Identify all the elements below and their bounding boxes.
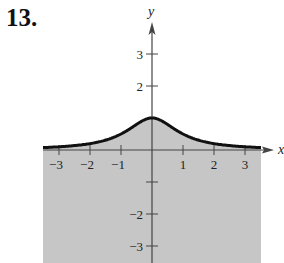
x-tick-label: 2: [211, 157, 218, 172]
y-axis-label: y: [146, 4, 155, 19]
y-tick-label: 2: [137, 79, 144, 94]
x-tick-label: 3: [242, 157, 249, 172]
x-tick-label: −2: [80, 157, 94, 172]
x-axis-label: x: [277, 142, 284, 157]
y-tick-label: 3: [137, 47, 144, 62]
x-tick-label: −3: [49, 157, 63, 172]
x-tick-label: 1: [180, 157, 187, 172]
y-tick-label: −2: [129, 207, 143, 222]
y-tick-label: −3: [129, 239, 143, 254]
x-tick-label: −1: [111, 157, 125, 172]
function-graph: −3−2−112332−2−3xy: [0, 0, 284, 263]
